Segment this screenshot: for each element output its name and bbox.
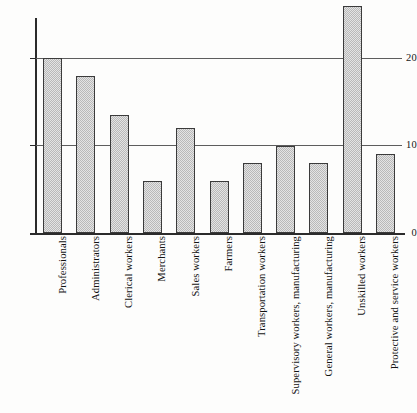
bars-layer [36, 6, 402, 233]
x-axis-category-label-text: Transportation workers [256, 236, 267, 337]
x-axis-category-label: Administrators [90, 236, 101, 301]
x-axis-category-label-text: Sales workers [190, 236, 201, 296]
y-tick-mark-0 [30, 233, 36, 234]
bar [376, 154, 395, 233]
bar [309, 163, 328, 233]
bar [110, 115, 129, 233]
x-axis-category-label: Sales workers [190, 236, 201, 296]
bar [143, 181, 162, 234]
x-axis-category-label: Merchants [156, 236, 167, 282]
x-axis-labels-layer: ProfessionalsAdministratorsClerical work… [36, 236, 402, 413]
bar [343, 6, 362, 234]
x-axis-category-label: Clerical workers [123, 236, 134, 308]
x-axis-category-label: Professionals [57, 236, 68, 294]
x-axis-category-label-text: Merchants [156, 236, 167, 282]
x-axis-category-label-text: General workers, manufacturing [323, 236, 334, 376]
bar [43, 58, 62, 233]
x-axis-category-label: Protective and service workers [389, 236, 400, 369]
x-axis-category-label: Unskilled workers [356, 236, 367, 316]
x-axis-category-label: Transportation workers [256, 236, 267, 337]
x-axis-category-label: Supervisory workers, manufacturing [290, 236, 301, 394]
x-axis-category-label-text: Supervisory workers, manufacturing [290, 236, 301, 394]
x-axis-category-label-text: Professionals [57, 236, 68, 294]
x-axis-line [30, 233, 405, 235]
bar [76, 76, 95, 234]
x-axis-category-label-text: Farmers [223, 236, 234, 271]
x-axis-category-label-text: Administrators [90, 236, 101, 301]
bar [210, 181, 229, 234]
bar-chart-figure: 0 10 20 ProfessionalsAdministratorsCleri… [0, 0, 417, 413]
x-axis-category-label-text: Protective and service workers [389, 236, 400, 369]
x-axis-category-label-text: Unskilled workers [356, 236, 367, 316]
bar [243, 163, 262, 233]
x-axis-category-label: General workers, manufacturing [323, 236, 334, 376]
bar [276, 146, 295, 234]
bar [176, 128, 195, 233]
x-axis-category-label-text: Clerical workers [123, 236, 134, 308]
x-axis-category-label: Farmers [223, 236, 234, 271]
